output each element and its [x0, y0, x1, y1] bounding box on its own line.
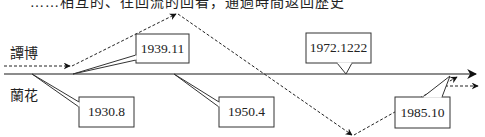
- lanhua-label: 蘭花: [10, 84, 38, 104]
- cropped-caption: ……相互的、往回流的回看，通過時間返回歷史: [30, 0, 345, 11]
- tanbo-label: 譚博: [10, 42, 38, 62]
- callout-label-1950-4: 1950.4: [219, 104, 274, 120]
- callout-label-1972-1222: 1972.1222: [306, 40, 371, 56]
- callout-label-1930-8: 1930.8: [79, 104, 134, 120]
- callout-label-1985-10: 1985.10: [395, 105, 450, 121]
- callout-label-1939-11: 1939.11: [136, 41, 189, 57]
- timeline-diagram: ……相互的、往回流的回看，通過時間返回歷史 譚博 蘭花 1930.8 1939.…: [0, 0, 485, 137]
